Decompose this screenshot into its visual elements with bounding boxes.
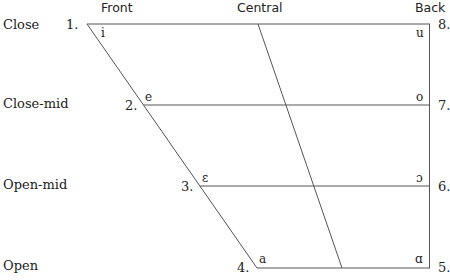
central-line [258,24,342,268]
vowel-number-2: 2. [125,99,137,112]
row-label-close: Close [3,18,39,31]
column-label-central: Central [237,2,283,15]
vowel-symbol-script-a: ɑ [415,253,423,265]
vowel-symbol-e: e [145,91,152,103]
front-edge [87,24,257,268]
vowel-symbol-open-o: ɔ [416,172,423,184]
row-label-close-mid: Close-mid [3,97,69,110]
row-label-open: Open [3,259,38,272]
vowel-symbol-a: a [259,253,266,265]
vowel-number-7: 7. [438,99,450,112]
vowel-symbol-o: o [416,91,423,103]
vowel-number-4: 4. [237,261,249,274]
vowel-number-5: 5. [438,261,450,274]
vowel-number-8: 8. [438,18,450,31]
vowel-trapezoid [0,0,450,280]
vowel-symbol-u: u [416,27,424,39]
vowel-symbol-open-e: ɛ [202,172,208,184]
column-label-front: Front [101,2,133,15]
vowel-symbol-i: i [101,27,105,39]
vowel-number-3: 3. [181,180,193,193]
vowel-number-6: 6. [438,180,450,193]
vowel-number-1: 1. [66,18,78,31]
row-label-open-mid: Open-mid [3,178,67,191]
column-label-back: Back [415,2,445,15]
